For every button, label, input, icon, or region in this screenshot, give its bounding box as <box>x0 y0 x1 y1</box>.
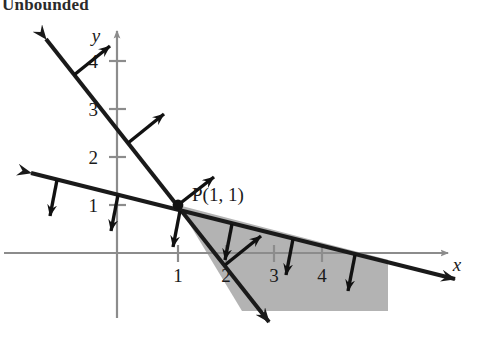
figure-caption: Unbounded <box>2 0 89 15</box>
y-tick-label-2: 2 <box>89 147 99 168</box>
vertex-label-p: P(1, 1) <box>192 184 244 206</box>
x-tick-label-3: 3 <box>269 265 279 286</box>
x-tick-label-1: 1 <box>173 265 183 286</box>
steep-boundary-line <box>46 39 269 322</box>
y-tick-label-1: 1 <box>89 195 99 216</box>
shallow-normal-arrow-1 <box>50 180 57 216</box>
x-axis-label: x <box>452 254 462 275</box>
x-tick-label-4: 4 <box>317 265 327 286</box>
y-axis-label: y <box>90 25 101 46</box>
vertex-point-p <box>173 200 184 211</box>
steep-line-segment <box>46 39 269 322</box>
shallow-normal-arrow-3 <box>173 211 180 247</box>
graph-svg: 1 2 3 4 1 2 3 4 y x <box>0 0 477 338</box>
steep-normal-arrow-2 <box>128 114 164 143</box>
unbounded-feasible-region-figure: Unbounded <box>0 0 477 338</box>
